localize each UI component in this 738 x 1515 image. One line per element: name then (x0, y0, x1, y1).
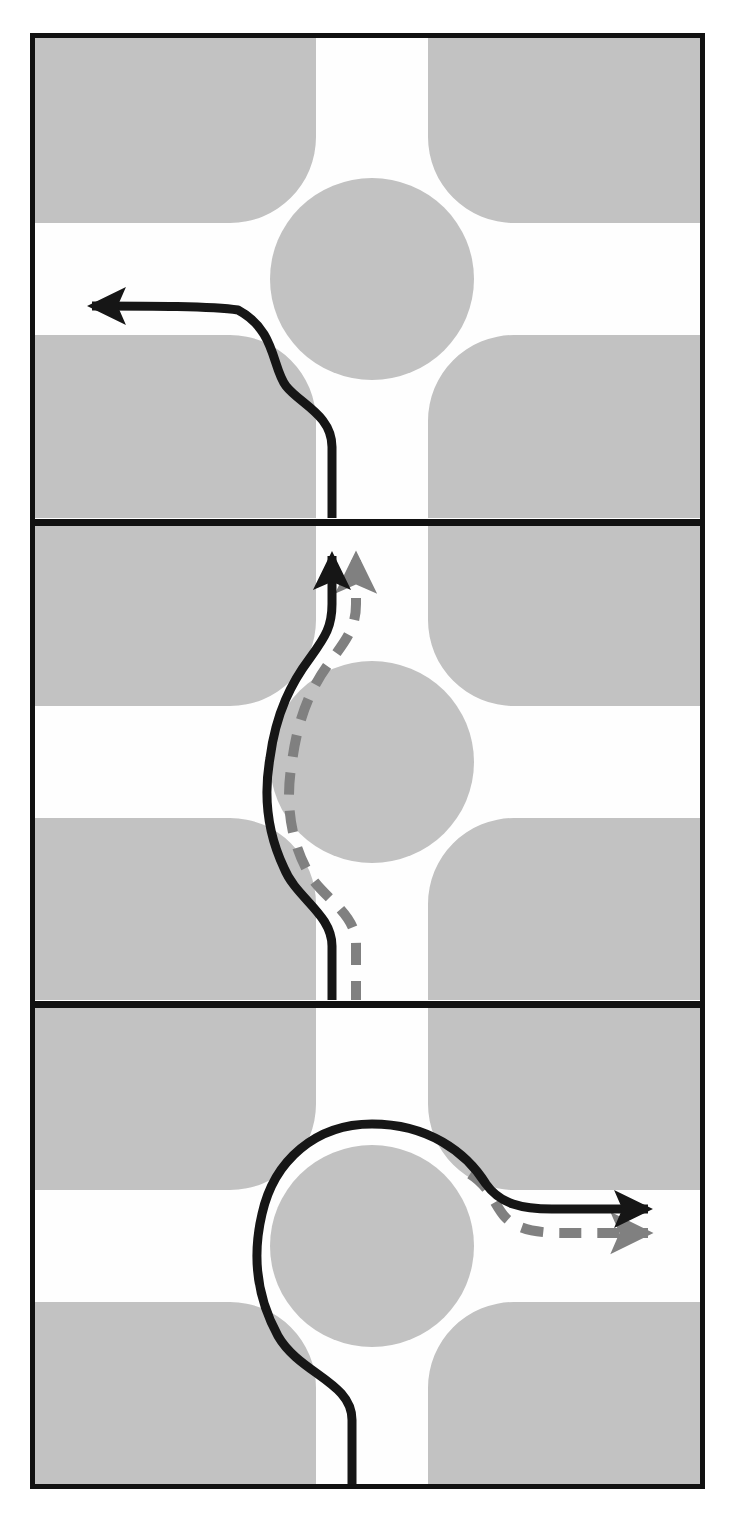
roundabout-scene-3 (32, 998, 712, 1494)
panel-1-left-turn (32, 31, 712, 527)
panel-2-through (32, 514, 712, 1010)
roundabout-diagram-svg: Roundabout vehicle path diagram Three st… (0, 0, 738, 1515)
panel-3-right-turn (32, 998, 712, 1494)
roundabout-scene-1 (32, 31, 712, 527)
roundabout-figure: Roundabout vehicle path diagram Three st… (0, 0, 738, 1515)
roundabout-scene-2 (32, 514, 712, 1010)
